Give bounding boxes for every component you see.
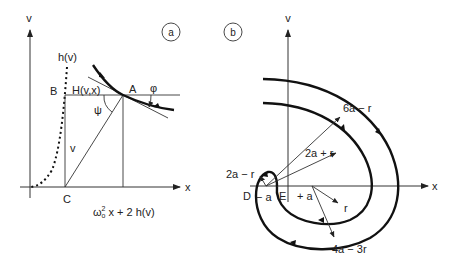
v-axis-label-b: v bbox=[285, 12, 291, 24]
h-of-v-label: h(v) bbox=[58, 51, 77, 63]
panel-a: a v x h(v) B H(v,x) A φ ψ v C ω2o bbox=[20, 12, 191, 219]
x-expression: ω2o x + 2 h(v) bbox=[93, 205, 155, 219]
spiral-arrow-inner-bottom bbox=[318, 217, 324, 223]
point-c-label: C bbox=[63, 193, 71, 205]
hamiltonian-label: H(v,x) bbox=[72, 84, 101, 96]
x-axis-label: x bbox=[185, 181, 191, 193]
phi-label: φ bbox=[150, 82, 157, 94]
point-e-label: E bbox=[279, 190, 286, 202]
minus-a-label: − a bbox=[256, 191, 272, 203]
svg-text:b: b bbox=[230, 27, 236, 38]
trajectory-arrow-upper bbox=[99, 72, 105, 78]
svg-text:a: a bbox=[168, 27, 174, 38]
panel-b-badge: b bbox=[224, 23, 242, 41]
x-axis-label-b: x bbox=[432, 180, 438, 192]
label-4a-minus-3r: 4a − 3r bbox=[332, 243, 367, 255]
label-2a-plus-r: 2a + r bbox=[305, 147, 334, 159]
plus-a-label: + a bbox=[297, 190, 313, 202]
segment-v-label: v bbox=[70, 142, 76, 154]
label-r: r bbox=[344, 202, 348, 214]
panel-a-badge: a bbox=[162, 23, 180, 41]
v-axis-label: v bbox=[26, 12, 32, 24]
label-2a-minus-r: 2a − r bbox=[226, 168, 255, 180]
radius-2a-minus-r bbox=[260, 176, 266, 186]
psi-label: ψ bbox=[94, 104, 102, 116]
psi-arc bbox=[104, 95, 112, 112]
panel-b: b v x 6a − r 2a + r 2a − r D E − a + a r bbox=[224, 12, 438, 255]
label-6a-minus-r: 6a − r bbox=[343, 102, 372, 114]
h-of-v-curve bbox=[31, 67, 67, 187]
phase-diagram: a v x h(v) B H(v,x) A φ ψ v C ω2o bbox=[0, 0, 456, 266]
point-b-label: B bbox=[50, 85, 57, 97]
point-d-label: D bbox=[243, 190, 251, 202]
inner-spiral-path bbox=[263, 103, 372, 224]
point-a-label: A bbox=[129, 83, 137, 95]
